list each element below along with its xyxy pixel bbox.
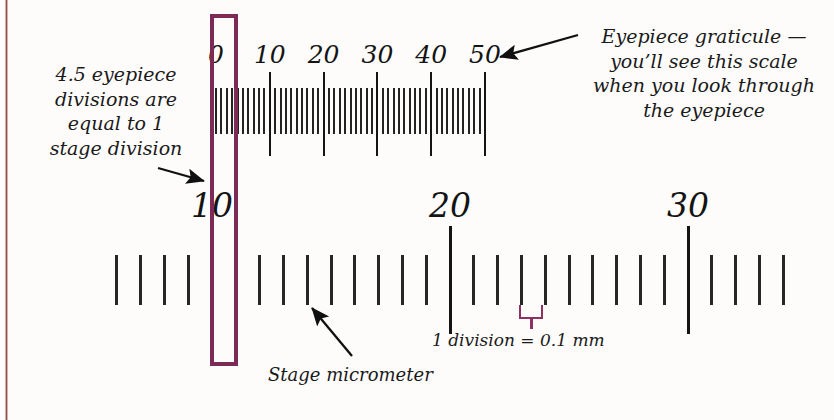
stage-minor-tick: [472, 255, 475, 305]
eyepiece-major-tick: [269, 72, 271, 156]
eyepiece-minor-tick: [285, 88, 287, 134]
eyepiece-minor-tick: [301, 88, 303, 134]
eyepiece-scale-label: 30: [361, 40, 393, 69]
eyepiece-minor-tick: [290, 88, 292, 134]
eyepiece-minor-tick: [306, 88, 308, 134]
stage-minor-tick: [282, 255, 285, 305]
eyepiece-major-tick: [430, 72, 432, 156]
eyepiece-major-tick: [484, 72, 486, 156]
stage-minor-tick: [615, 255, 618, 305]
eyepiece-minor-tick: [441, 88, 443, 134]
eyepiece-minor-tick: [419, 88, 421, 134]
eyepiece-minor-tick: [393, 88, 395, 134]
stage-minor-tick: [330, 255, 333, 305]
stage-minor-tick: [734, 255, 737, 305]
stage-micrometer-label: Stage micrometer: [268, 363, 488, 386]
arrow-to-stage-micrometer: [312, 308, 352, 356]
eyepiece-minor-tick: [382, 88, 384, 134]
eyepiece-minor-tick: [355, 88, 357, 134]
eyepiece-minor-tick: [479, 88, 481, 134]
eyepiece-scale-label: 40: [415, 40, 447, 69]
eyepiece-minor-tick: [387, 88, 389, 134]
eyepiece-minor-tick: [452, 88, 454, 134]
eyepiece-major-tick: [323, 72, 325, 156]
stage-minor-tick: [115, 255, 118, 305]
eyepiece-minor-tick: [344, 88, 346, 134]
right-annotation-note: Eyepiece graticule — you’ll see this sca…: [578, 24, 830, 123]
stage-scale-label: 20: [429, 186, 471, 225]
eyepiece-major-tick: [376, 72, 378, 156]
eyepiece-minor-tick: [371, 88, 373, 134]
eyepiece-minor-tick: [242, 88, 244, 134]
highlight-box: [210, 14, 238, 366]
eyepiece-scale-label: 10: [254, 40, 286, 69]
eyepiece-minor-tick: [247, 88, 249, 134]
arrow-to-highlight-box: [158, 168, 204, 181]
eyepiece-minor-tick: [263, 88, 265, 134]
eyepiece-minor-tick: [473, 88, 475, 134]
eyepiece-minor-tick: [446, 88, 448, 134]
eyepiece-scale-label: 50: [469, 40, 501, 69]
stage-minor-tick: [710, 255, 713, 305]
arrow-to-eyepiece-graticule: [500, 35, 578, 57]
eyepiece-minor-tick: [339, 88, 341, 134]
eyepiece-minor-tick: [403, 88, 405, 134]
left-annotation-note: 4.5 eyepiece divisions are equal to 1 st…: [24, 62, 208, 161]
eyepiece-minor-tick: [414, 88, 416, 134]
eyepiece-minor-tick: [457, 88, 459, 134]
stage-minor-tick: [568, 255, 571, 305]
stage-minor-tick: [520, 255, 523, 305]
eyepiece-minor-tick: [258, 88, 260, 134]
eyepiece-minor-tick: [296, 88, 298, 134]
stage-minor-tick: [377, 255, 380, 305]
stage-scale-label: 30: [667, 186, 709, 225]
stage-major-tick: [687, 226, 690, 334]
division-bracket-icon: [519, 305, 543, 319]
stage-minor-tick: [758, 255, 761, 305]
eyepiece-minor-tick: [425, 88, 427, 134]
eyepiece-minor-tick: [462, 88, 464, 134]
stage-minor-tick: [139, 255, 142, 305]
eyepiece-minor-tick: [312, 88, 314, 134]
eyepiece-minor-tick: [317, 88, 319, 134]
eyepiece-minor-tick: [333, 88, 335, 134]
eyepiece-minor-tick: [280, 88, 282, 134]
eyepiece-minor-tick: [253, 88, 255, 134]
page-edge-rule: [5, 0, 8, 420]
stage-minor-tick: [425, 255, 428, 305]
eyepiece-minor-tick: [468, 88, 470, 134]
stage-minor-tick: [258, 255, 261, 305]
eyepiece-minor-tick: [436, 88, 438, 134]
stage-minor-tick: [639, 255, 642, 305]
eyepiece-scale-label: 20: [308, 40, 340, 69]
stage-minor-tick: [306, 255, 309, 305]
stage-minor-tick: [401, 255, 404, 305]
stage-minor-tick: [663, 255, 666, 305]
stage-minor-tick: [353, 255, 356, 305]
stage-minor-tick: [591, 255, 594, 305]
stage-major-tick: [449, 226, 452, 334]
stage-minor-tick: [496, 255, 499, 305]
division-bracket-stem-icon: [530, 318, 533, 329]
eyepiece-minor-tick: [409, 88, 411, 134]
stage-minor-tick: [782, 255, 785, 305]
stage-minor-tick: [163, 255, 166, 305]
eyepiece-minor-tick: [366, 88, 368, 134]
eyepiece-minor-tick: [360, 88, 362, 134]
eyepiece-minor-tick: [350, 88, 352, 134]
stage-minor-tick: [544, 255, 547, 305]
eyepiece-minor-tick: [328, 88, 330, 134]
stage-minor-tick: [187, 255, 190, 305]
eyepiece-minor-tick: [398, 88, 400, 134]
division-size-label: 1 division = 0.1 mm: [432, 329, 662, 351]
micrometer-calibration-figure: 01020304050 102030 4.5 eyepiece division…: [0, 0, 834, 420]
eyepiece-minor-tick: [274, 88, 276, 134]
